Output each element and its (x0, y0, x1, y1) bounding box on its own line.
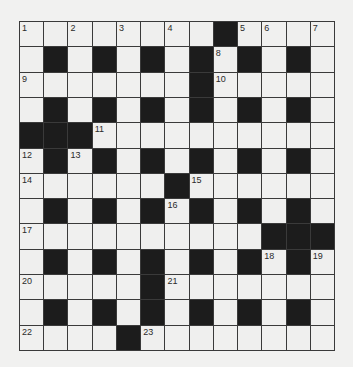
answer-cell[interactable] (287, 22, 310, 46)
answer-cell[interactable] (311, 199, 334, 223)
answer-cell[interactable] (311, 275, 334, 299)
answer-cell[interactable] (141, 73, 164, 97)
answer-cell[interactable] (117, 300, 140, 324)
answer-cell[interactable] (287, 275, 310, 299)
answer-cell[interactable]: 1 (20, 22, 43, 46)
answer-cell[interactable] (141, 123, 164, 147)
answer-cell[interactable] (117, 73, 140, 97)
answer-cell[interactable]: 14 (20, 174, 43, 198)
answer-cell[interactable] (311, 98, 334, 122)
answer-cell[interactable] (262, 123, 285, 147)
answer-cell[interactable] (214, 149, 237, 173)
answer-cell[interactable] (117, 123, 140, 147)
answer-cell[interactable] (238, 174, 261, 198)
answer-cell[interactable] (68, 250, 91, 274)
answer-cell[interactable] (68, 224, 91, 248)
answer-cell[interactable] (214, 224, 237, 248)
answer-cell[interactable]: 19 (311, 250, 334, 274)
answer-cell[interactable]: 23 (141, 326, 164, 350)
answer-cell[interactable] (141, 174, 164, 198)
answer-cell[interactable] (165, 149, 188, 173)
answer-cell[interactable] (190, 123, 213, 147)
answer-cell[interactable] (238, 73, 261, 97)
answer-cell[interactable] (68, 47, 91, 71)
answer-cell[interactable] (165, 224, 188, 248)
answer-cell[interactable] (44, 73, 67, 97)
answer-cell[interactable]: 16 (165, 199, 188, 223)
answer-cell[interactable] (44, 174, 67, 198)
answer-cell[interactable] (165, 250, 188, 274)
answer-cell[interactable] (93, 275, 116, 299)
answer-cell[interactable] (262, 73, 285, 97)
answer-cell[interactable]: 8 (214, 47, 237, 71)
answer-cell[interactable] (262, 174, 285, 198)
answer-cell[interactable] (44, 224, 67, 248)
answer-cell[interactable] (141, 22, 164, 46)
answer-cell[interactable] (214, 300, 237, 324)
answer-cell[interactable]: 22 (20, 326, 43, 350)
answer-cell[interactable] (190, 22, 213, 46)
answer-cell[interactable] (93, 326, 116, 350)
answer-cell[interactable] (190, 275, 213, 299)
answer-cell[interactable] (287, 123, 310, 147)
answer-cell[interactable]: 12 (20, 149, 43, 173)
answer-cell[interactable] (68, 98, 91, 122)
answer-cell[interactable] (165, 326, 188, 350)
answer-cell[interactable] (238, 224, 261, 248)
answer-cell[interactable] (117, 199, 140, 223)
answer-cell[interactable] (214, 326, 237, 350)
answer-cell[interactable] (190, 224, 213, 248)
answer-cell[interactable] (311, 123, 334, 147)
answer-cell[interactable] (117, 47, 140, 71)
answer-cell[interactable]: 3 (117, 22, 140, 46)
answer-cell[interactable]: 17 (20, 224, 43, 248)
answer-cell[interactable] (214, 199, 237, 223)
answer-cell[interactable]: 7 (311, 22, 334, 46)
answer-cell[interactable] (262, 199, 285, 223)
answer-cell[interactable] (311, 149, 334, 173)
answer-cell[interactable] (214, 123, 237, 147)
answer-cell[interactable] (68, 275, 91, 299)
answer-cell[interactable]: 21 (165, 275, 188, 299)
answer-cell[interactable] (311, 326, 334, 350)
answer-cell[interactable] (262, 275, 285, 299)
answer-cell[interactable] (214, 275, 237, 299)
answer-cell[interactable] (20, 300, 43, 324)
answer-cell[interactable]: 20 (20, 275, 43, 299)
answer-cell[interactable] (93, 22, 116, 46)
answer-cell[interactable] (262, 149, 285, 173)
answer-cell[interactable] (262, 300, 285, 324)
answer-cell[interactable] (93, 174, 116, 198)
answer-cell[interactable] (262, 326, 285, 350)
answer-cell[interactable] (68, 326, 91, 350)
answer-cell[interactable] (117, 224, 140, 248)
answer-cell[interactable] (165, 123, 188, 147)
answer-cell[interactable] (238, 123, 261, 147)
answer-cell[interactable] (141, 224, 164, 248)
answer-cell[interactable]: 5 (238, 22, 261, 46)
answer-cell[interactable]: 13 (68, 149, 91, 173)
answer-cell[interactable] (117, 250, 140, 274)
answer-cell[interactable] (93, 73, 116, 97)
answer-cell[interactable] (20, 199, 43, 223)
answer-cell[interactable] (287, 174, 310, 198)
answer-cell[interactable] (262, 98, 285, 122)
answer-cell[interactable] (20, 250, 43, 274)
answer-cell[interactable] (165, 73, 188, 97)
answer-cell[interactable] (165, 300, 188, 324)
answer-cell[interactable] (190, 326, 213, 350)
answer-cell[interactable] (238, 326, 261, 350)
answer-cell[interactable] (214, 98, 237, 122)
answer-cell[interactable] (117, 149, 140, 173)
answer-cell[interactable]: 15 (190, 174, 213, 198)
answer-cell[interactable] (238, 275, 261, 299)
answer-cell[interactable] (117, 98, 140, 122)
answer-cell[interactable] (165, 98, 188, 122)
answer-cell[interactable] (311, 47, 334, 71)
answer-cell[interactable] (311, 300, 334, 324)
answer-cell[interactable] (117, 174, 140, 198)
answer-cell[interactable] (287, 326, 310, 350)
answer-cell[interactable]: 18 (262, 250, 285, 274)
answer-cell[interactable] (68, 73, 91, 97)
answer-cell[interactable] (68, 199, 91, 223)
